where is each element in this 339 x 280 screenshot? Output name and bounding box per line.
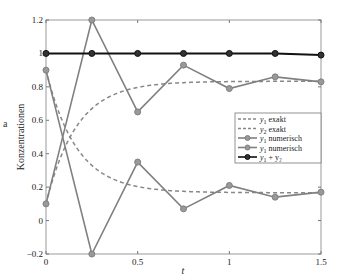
x-axis-label: t [182, 265, 185, 276]
data-point-marker [272, 74, 278, 80]
data-point-marker [181, 50, 187, 56]
legend-marker [245, 145, 250, 150]
y-tick-label: 1 [39, 48, 44, 58]
legend: y1 exakty2 exakty1 numerischy1 numerisch… [235, 113, 321, 163]
data-point-marker [135, 109, 141, 115]
data-point-marker [318, 189, 324, 195]
legend-marker [245, 155, 250, 160]
data-point-marker [43, 201, 49, 207]
x-tick-label: 1.5 [315, 257, 327, 267]
x-tick-label: 0 [44, 257, 49, 267]
y-tick-label: 0 [39, 216, 44, 226]
data-point-marker [272, 50, 278, 56]
legend-marker [245, 136, 250, 141]
data-point-marker [318, 79, 324, 85]
y-tick-label: −0.2 [27, 249, 43, 259]
data-point-marker [181, 62, 187, 68]
data-point-marker [226, 50, 232, 56]
data-point-marker [135, 159, 141, 165]
y-tick-label: 0.4 [32, 149, 44, 159]
data-point-marker [226, 182, 232, 188]
legend-entry: y1 exakt [259, 115, 287, 125]
y-tick-label: 0.2 [32, 182, 43, 192]
x-tick-label: 0.5 [132, 257, 144, 267]
data-point-marker [89, 251, 95, 257]
data-point-marker [181, 206, 187, 212]
line-chart: 00.511.5−0.200.20.40.60.811.2 t Konzentr… [0, 0, 339, 280]
legend-entry: y1 + y₂ [259, 153, 282, 163]
data-point-marker [89, 50, 95, 56]
data-point-marker [318, 52, 324, 58]
x-tick-label: 1 [227, 257, 232, 267]
y-tick-label: 0.6 [32, 115, 44, 125]
y-tick-label: 1.2 [32, 15, 43, 25]
data-point-marker [226, 86, 232, 92]
data-point-marker [43, 50, 49, 56]
legend-entry: y2 exakt [259, 125, 287, 135]
y-tick-label: 0.8 [32, 82, 44, 92]
data-point-marker [89, 17, 95, 23]
numeric-line [46, 20, 321, 204]
data-point-marker [43, 67, 49, 73]
data-point-marker [272, 194, 278, 200]
y-axis-label: Konzentrationen [15, 104, 26, 171]
data-point-marker [135, 50, 141, 56]
